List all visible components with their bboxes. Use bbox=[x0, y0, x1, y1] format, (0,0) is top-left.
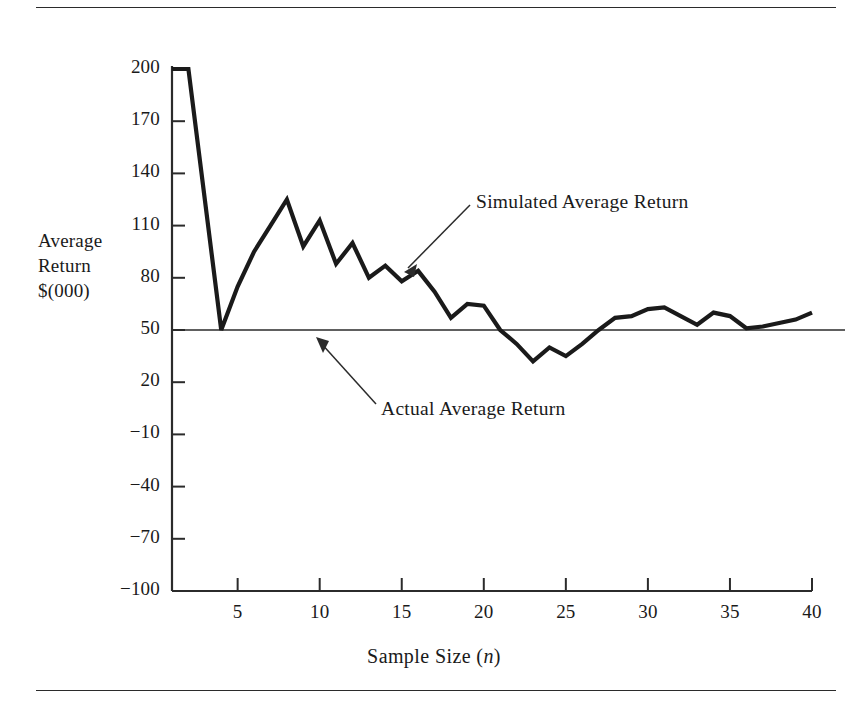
y-tick-label-−40: −40 bbox=[86, 474, 160, 496]
annotation-simulated-average-return: Simulated Average Return bbox=[476, 191, 689, 213]
y-tick-label-140: 140 bbox=[86, 160, 160, 182]
figure-container: Average Return $(000) 200170140110805020… bbox=[0, 0, 868, 711]
x-tick-label-40: 40 bbox=[789, 601, 835, 623]
x-tick-label-35: 35 bbox=[707, 601, 753, 623]
x-tick-label-20: 20 bbox=[461, 601, 507, 623]
y-tick-label-−10: −10 bbox=[86, 421, 160, 443]
chart-axes bbox=[172, 66, 812, 591]
y-tick-label-200: 200 bbox=[86, 56, 160, 78]
x-tick-label-30: 30 bbox=[625, 601, 671, 623]
x-tick-label-15: 15 bbox=[379, 601, 425, 623]
y-tick-label-50: 50 bbox=[86, 317, 160, 339]
actual-leader-line bbox=[320, 342, 376, 404]
y-tick-label-−70: −70 bbox=[86, 526, 160, 548]
x-axis-title-variable: n bbox=[483, 645, 493, 667]
y-tick-label-110: 110 bbox=[86, 213, 160, 235]
x-axis-title-suffix: ) bbox=[494, 645, 501, 667]
x-tick-label-5: 5 bbox=[215, 601, 261, 623]
x-tick-label-10: 10 bbox=[297, 601, 343, 623]
y-tick-label-20: 20 bbox=[86, 369, 160, 391]
x-axis-title-prefix: Sample Size ( bbox=[367, 645, 483, 667]
x-tick-label-25: 25 bbox=[543, 601, 589, 623]
y-tick-label-170: 170 bbox=[86, 108, 160, 130]
simulated-average-return-line bbox=[172, 69, 812, 361]
annotation-leader-lines bbox=[316, 205, 470, 404]
y-tick-label-−100: −100 bbox=[86, 578, 160, 600]
plot-area: Average Return $(000) 200170140110805020… bbox=[0, 0, 868, 711]
y-tick-label-80: 80 bbox=[86, 265, 160, 287]
x-axis-title: Sample Size (n) bbox=[0, 645, 868, 668]
x-axis-ticks bbox=[238, 578, 812, 591]
simulated-leader-line bbox=[408, 205, 470, 268]
annotation-actual-average-return: Actual Average Return bbox=[381, 398, 566, 420]
